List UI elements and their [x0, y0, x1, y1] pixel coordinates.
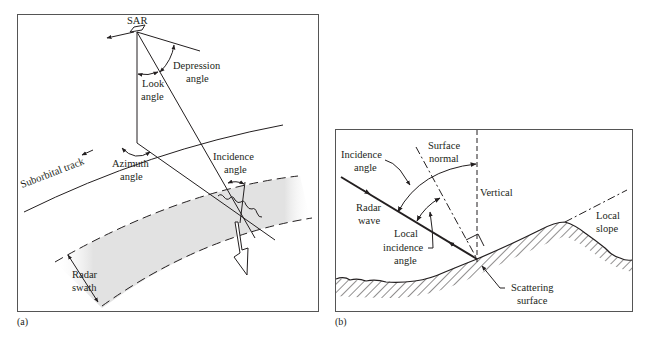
label-incidence-angle: Incidence — [341, 149, 382, 160]
label-surface-normal-2: normal — [429, 153, 459, 164]
label-local-slope: Local — [596, 210, 620, 221]
label-scattering-surface: Scattering — [511, 282, 554, 293]
label-azimuth-angle: Azimuth — [112, 158, 149, 169]
sar-geometry-figure: SAR Depression angle Look angle Suborbit… — [0, 0, 651, 342]
incidence-angle-arc — [398, 164, 476, 212]
terrain-hatch — [336, 222, 632, 298]
label-vertical: Vertical — [480, 187, 513, 198]
label-incidence-angle: Incidence — [213, 151, 254, 162]
label-incidence-angle-2: angle — [224, 164, 247, 175]
label-suborbital-track: Suborbital track — [19, 155, 87, 190]
terrain-surface-line — [336, 222, 632, 282]
label-incidence-angle-2: angle — [354, 162, 377, 173]
caption-panel-a: (a) — [17, 316, 28, 328]
caption-panel-b: (b) — [335, 316, 347, 328]
label-look-angle: Look — [142, 78, 165, 89]
label-radar-swath-2: swath — [72, 282, 97, 293]
depression-angle-arc — [160, 45, 174, 72]
incidence-angle-leader — [385, 160, 410, 185]
label-local-incidence-angle-2: incidence — [383, 242, 424, 253]
label-local-incidence-angle: Local — [394, 228, 418, 239]
track-direction-arrow — [82, 150, 93, 155]
label-depression-angle-2: angle — [186, 73, 209, 84]
label-azimuth-angle-2: angle — [120, 171, 143, 182]
label-radar-wave: Radar — [356, 202, 382, 213]
label-sar: SAR — [127, 15, 147, 26]
look-angle-arc — [138, 72, 158, 75]
label-local-slope-2: slope — [596, 223, 619, 234]
label-scattering-surface-2: surface — [517, 295, 548, 306]
panel-a: SAR Depression angle Look angle Suborbit… — [17, 15, 319, 329]
label-depression-angle: Depression — [173, 60, 221, 71]
label-radar-swath: Radar — [72, 269, 98, 280]
label-look-angle-2: angle — [141, 91, 164, 102]
label-local-incidence-angle-3: angle — [394, 255, 417, 266]
local-incidence-angle-arc — [417, 198, 440, 221]
sar-platform-icon — [130, 25, 145, 32]
right-angle-marker — [466, 234, 484, 246]
radar-wave-arrow-back — [449, 242, 455, 246]
incidence-angle-arc — [228, 182, 244, 184]
flight-direction-arrow — [107, 32, 134, 38]
label-radar-wave-2: wave — [358, 215, 380, 226]
panel-b: Incidence angle Surface normal Vertical … — [335, 130, 633, 329]
label-surface-normal: Surface — [428, 140, 460, 151]
